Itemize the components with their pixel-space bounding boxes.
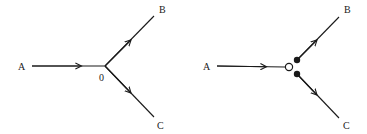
junction-label: 0: [99, 72, 104, 83]
arrow-icon: [105, 66, 130, 92]
node-b-label: B: [159, 4, 166, 15]
node-c-label: C: [157, 120, 164, 131]
node-c-label: C: [343, 120, 350, 131]
node-a-label: A: [203, 61, 211, 72]
arrow-icon: [105, 41, 130, 66]
right-diagram: A B C: [203, 4, 351, 131]
junction-diagrams: A 0 B C A B C: [0, 0, 367, 134]
node-a-label: A: [18, 61, 26, 72]
left-diagram: A 0 B C: [18, 4, 166, 131]
arrow-icon: [297, 74, 316, 94]
node-b-label: B: [344, 4, 351, 15]
open-circle-icon: [285, 63, 292, 70]
arrow-icon: [297, 41, 316, 60]
arrow-icon: [217, 66, 265, 67]
